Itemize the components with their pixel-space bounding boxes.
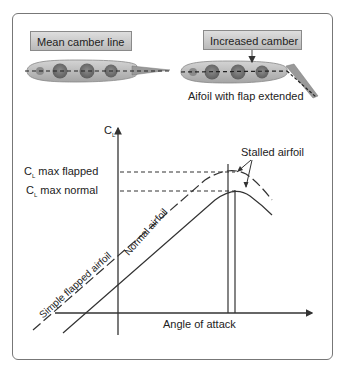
cl-max-normal-rest: max normal: [40, 184, 97, 196]
cl-max-flapped-main: C: [24, 165, 32, 177]
x-axis-label: Angle of attack: [163, 318, 236, 330]
cl-max-normal-sub: L: [34, 192, 37, 198]
y-axis-label-sub: L: [112, 132, 115, 138]
cl-max-flapped-label: CL max flapped: [24, 165, 98, 179]
y-axis-label-main: C: [104, 124, 112, 136]
stalled-arrows: [237, 160, 252, 188]
stall-angle-lines: [228, 164, 235, 313]
cl-max-normal-label: CL max normal: [26, 184, 98, 198]
y-axis-label: CL: [104, 124, 115, 138]
cl-max-flapped-sub: L: [32, 173, 35, 179]
cl-max-flapped-rest: max flapped: [38, 165, 98, 177]
normal-airfoil-shape: [25, 60, 170, 82]
stalled-airfoil-label: Stalled airfoil: [241, 146, 304, 158]
chart-axes: [55, 128, 312, 335]
max-reference-lines: [120, 172, 235, 191]
cl-max-normal-main: C: [26, 184, 34, 196]
flap-extended-caption: Aifoil with flap extended: [188, 90, 304, 102]
